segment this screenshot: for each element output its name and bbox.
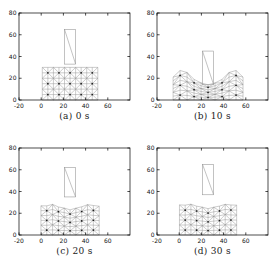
svg-text:60: 60 (147, 166, 155, 173)
svg-text:80: 80 (147, 9, 155, 16)
svg-text:20: 20 (9, 74, 17, 81)
svg-text:0: 0 (13, 96, 17, 103)
subplot-a: -200204060020406080 (a) 0 s (0, 0, 138, 135)
caption-d: (d) 30 s (138, 246, 276, 256)
svg-text:40: 40 (9, 188, 17, 195)
indenter (203, 51, 214, 85)
svg-text:60: 60 (242, 237, 250, 244)
svg-text:60: 60 (147, 31, 155, 38)
svg-text:0: 0 (151, 231, 155, 238)
svg-text:0: 0 (177, 237, 181, 244)
svg-text:0: 0 (13, 231, 17, 238)
caption-c: (c) 20 s (0, 246, 138, 256)
svg-text:20: 20 (60, 102, 68, 109)
svg-text:60: 60 (104, 102, 112, 109)
subplot-b: -200204060020406080 (b) 10 s (138, 0, 277, 135)
plot-b: -200204060020406080 (138, 0, 276, 110)
svg-text:0: 0 (39, 237, 43, 244)
svg-text:20: 20 (147, 74, 155, 81)
svg-text:80: 80 (9, 9, 17, 16)
caption-b: (b) 10 s (138, 111, 276, 121)
svg-text:60: 60 (104, 237, 112, 244)
plot-a: -200204060020406080 (0, 0, 138, 110)
svg-text:0: 0 (151, 96, 155, 103)
svg-text:80: 80 (147, 144, 155, 151)
svg-text:40: 40 (9, 53, 17, 60)
axes-box (157, 13, 268, 100)
svg-text:40: 40 (220, 102, 228, 109)
svg-text:60: 60 (9, 166, 17, 173)
figure-grid: -200204060020406080 (a) 0 s -20020406002… (0, 0, 277, 270)
svg-text:20: 20 (198, 237, 206, 244)
svg-text:20: 20 (198, 102, 206, 109)
svg-text:20: 20 (147, 209, 155, 216)
mesh-lines (173, 70, 243, 100)
axes-box (19, 13, 130, 100)
svg-text:60: 60 (9, 31, 17, 38)
indenter (203, 164, 214, 194)
svg-text:40: 40 (147, 53, 155, 60)
svg-text:40: 40 (82, 237, 90, 244)
svg-text:20: 20 (60, 237, 68, 244)
svg-text:60: 60 (242, 102, 250, 109)
indenter (65, 29, 76, 64)
svg-text:20: 20 (9, 209, 17, 216)
indenter (65, 168, 76, 197)
subplot-c: -200204060020406080 (c) 20 s (0, 135, 138, 270)
svg-text:0: 0 (39, 102, 43, 109)
svg-text:40: 40 (147, 188, 155, 195)
plot-c: -200204060020406080 (0, 135, 138, 245)
svg-text:40: 40 (82, 102, 90, 109)
svg-text:0: 0 (177, 102, 181, 109)
subplot-d: -200204060020406080 (d) 30 s (138, 135, 277, 270)
svg-text:40: 40 (220, 237, 228, 244)
caption-a: (a) 0 s (0, 111, 138, 121)
plot-d: -200204060020406080 (138, 135, 276, 245)
svg-text:80: 80 (9, 144, 17, 151)
tick-labels: -200204060020406080 (9, 9, 112, 109)
